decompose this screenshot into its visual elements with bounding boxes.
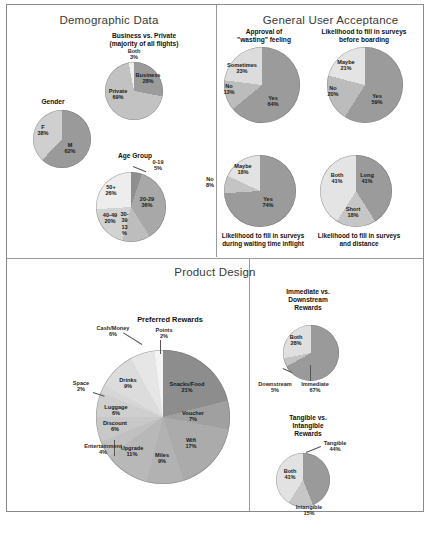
pie-label-distance-long: Long 41% xyxy=(355,172,379,185)
chart-title-preferred-rewards: Preferred Rewards xyxy=(120,316,220,324)
pie-label-intangible: Intangible 15% xyxy=(290,504,328,517)
pie-label-both-tangible: Both 41% xyxy=(278,468,302,481)
chart-title-tangible-intangible: Tangible vs. Intangible Rewards xyxy=(266,414,350,439)
pie-label-entertainment: Entertainment 4% xyxy=(79,443,127,456)
horizontal-divider xyxy=(7,258,423,259)
pie-label-inflight-no: No 8% xyxy=(200,176,220,189)
chart-title-business-private: Business vs. Private (majority of all fl… xyxy=(88,32,200,48)
pie-label-approval-sometimes: Sometimes 23% xyxy=(222,62,262,75)
pie-label-both-immediate: Both 28% xyxy=(284,334,308,347)
pie-label-distance-both: Both 41% xyxy=(325,172,349,185)
leader-line-points xyxy=(160,340,161,354)
pie-label-age-50plus: 50+ 26% xyxy=(99,184,123,197)
pie-label-both-flights: Both 3% xyxy=(122,48,146,61)
pie-label-gender-f: F 38% xyxy=(32,124,54,137)
pie-label-drinks: Drinks 9% xyxy=(115,377,141,390)
pie-label-tangible: Tangible 44% xyxy=(318,440,352,453)
pie-label-wifi: Wifi 17% xyxy=(180,437,202,450)
pie-label-before-maybe: Maybe 21% xyxy=(331,59,361,72)
chart-title-immediate-downstream: Immediate vs. Downstream Rewards xyxy=(262,288,354,313)
pie-label-snacks-food: Snacks/Food 21% xyxy=(166,381,208,394)
pie-label-age-20-29: 20-29 36% xyxy=(133,196,161,209)
pie-label-cash-money: Cash/Money 6% xyxy=(92,325,134,338)
chart-title-surveys-before-boarding: Likelihood to fill in surveys before boa… xyxy=(305,28,423,44)
pie-label-gender-m: M 62% xyxy=(58,142,82,155)
pie-label-downstream: Downstream 5% xyxy=(254,381,296,394)
pie-label-age-40-49: 40-49 20% xyxy=(97,212,123,225)
pie-label-miles: Miles 9% xyxy=(150,452,174,465)
pie-label-distance-short: Short 18% xyxy=(340,206,366,219)
pie-label-inflight-yes: Yes 74% xyxy=(256,196,280,209)
pie-label-space: Space 2% xyxy=(68,380,94,393)
pie-label-points: Points 2% xyxy=(150,327,178,340)
chart-caption-surveys-distance: Likelihood to fill in surveys and distan… xyxy=(300,232,418,248)
pie-label-private: Private 69% xyxy=(104,88,132,101)
pie-label-before-yes: Yes 59% xyxy=(365,93,389,106)
leader-line-immediate xyxy=(310,365,311,381)
pie-label-luggage: Luggage 6% xyxy=(101,404,131,417)
section-title-product: Product Design xyxy=(120,266,310,278)
pie-label-discount: Discount 6% xyxy=(100,420,130,433)
vertical-divider xyxy=(216,5,217,257)
section-title-demographic: Demographic Data xyxy=(24,14,194,26)
pie-label-approval-no: No 13% xyxy=(219,83,239,96)
section-title-acceptance: General User Acceptance xyxy=(238,14,423,26)
pie-label-age-0-19: 0-19 5% xyxy=(145,159,171,172)
pie-gender xyxy=(33,110,91,168)
pie-label-immediate: Immediate 67% xyxy=(297,381,333,394)
pie-label-voucher: Voucher 7% xyxy=(178,410,208,423)
pie-label-inflight-maybe: Maybe 18% xyxy=(229,163,257,176)
figure-canvas: Demographic Data General User Acceptance… xyxy=(0,0,430,541)
pie-label-before-no: No 20% xyxy=(322,85,344,98)
vertical-divider-2 xyxy=(249,259,250,511)
pie-label-business: Business 28% xyxy=(131,72,165,85)
chart-title-gender: Gender xyxy=(18,98,88,106)
pie-label-approval-yes: Yes 64% xyxy=(261,95,285,108)
chart-title-approval-wasting: Approval of "wasting" feeling xyxy=(225,28,303,44)
